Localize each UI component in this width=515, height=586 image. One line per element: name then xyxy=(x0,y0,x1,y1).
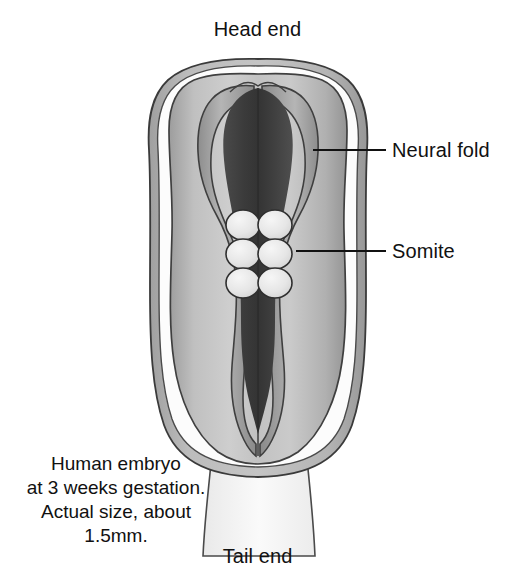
somite xyxy=(258,239,292,269)
somite-group-right xyxy=(258,210,292,298)
caption-line-2: at 3 weeks gestation. xyxy=(18,476,214,500)
label-neural-fold: Neural fold xyxy=(392,138,490,163)
somite xyxy=(226,268,260,298)
label-head-end: Head end xyxy=(0,17,515,42)
somite xyxy=(226,239,260,269)
figure-caption: Human embryo at 3 weeks gestation. Actua… xyxy=(18,452,214,548)
somite xyxy=(258,210,292,240)
label-somite: Somite xyxy=(392,239,455,264)
caption-line-3: Actual size, about xyxy=(18,500,214,524)
somite-group-left xyxy=(226,210,260,298)
caption-line-4: 1.5mm. xyxy=(18,524,214,548)
somite xyxy=(226,210,260,240)
caption-line-1: Human embryo xyxy=(18,452,214,476)
somite xyxy=(258,268,292,298)
